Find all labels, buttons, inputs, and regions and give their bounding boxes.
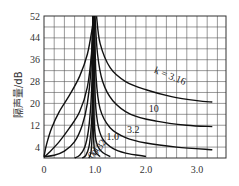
x-tick-label: 0: [42, 164, 47, 175]
plot-frame: [44, 16, 226, 158]
y-tick-label: 12: [30, 120, 40, 131]
curve-k-3-2: [94, 16, 212, 150]
y-axis-ticks: 4122028364452: [30, 11, 40, 153]
curve-label: k = 3.16: [153, 64, 188, 87]
curve-label: 10: [149, 103, 159, 114]
x-axis-ticks: 01.02.03.0: [42, 164, 204, 175]
y-tick-label: 4: [35, 142, 40, 153]
y-tick-label: 52: [30, 11, 40, 22]
y-tick-label: 28: [30, 76, 40, 87]
curve-k-3-16: [97, 16, 213, 102]
x-tick-label: 2.0: [140, 164, 153, 175]
curve-left-3: [44, 16, 93, 157]
y-tick-label: 44: [30, 32, 40, 43]
x-tick-label: 3.0: [191, 164, 204, 175]
y-axis-label: 隔声量/dB: [12, 71, 24, 118]
grid-lines: [44, 16, 226, 158]
curve-left-1: [44, 16, 94, 157]
y-tick-label: 36: [30, 54, 40, 65]
curve-label: 1.0: [107, 131, 120, 142]
y-tick-label: 20: [30, 98, 40, 109]
isolation-chart: 01.02.03.0 4122028364452 k = 3.16103.21.…: [0, 0, 239, 186]
x-tick-label: 1.0: [89, 164, 102, 175]
curve-label: 3.2: [127, 124, 140, 135]
